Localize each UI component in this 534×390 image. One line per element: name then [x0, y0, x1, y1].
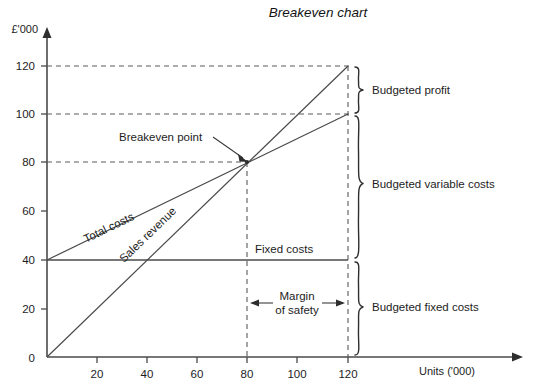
y-tick-label-60: 60: [22, 205, 35, 217]
x-axis-ticks: 20 40 60 80 100 120: [91, 357, 358, 380]
budgeted-variable-costs-label: Budgeted variable costs: [372, 178, 495, 190]
breakeven-chart-figure: Breakeven chart £'000 Units ('000) 120 1…: [0, 0, 534, 390]
chart-canvas: Breakeven chart £'000 Units ('000) 120 1…: [0, 0, 534, 390]
budgeted-fixed-costs-label: Budgeted fixed costs: [372, 301, 479, 313]
budgeted-profit-brace: [355, 67, 363, 113]
budgeted-profit-label: Budgeted profit: [372, 84, 451, 96]
margin-of-safety-label-line2: of safety: [275, 304, 319, 316]
series-label-total-costs: Total costs: [82, 210, 136, 245]
y-tick-label-0: 0: [29, 352, 35, 364]
x-tick-label-100: 100: [287, 368, 306, 380]
y-tick-label-80: 80: [22, 156, 35, 168]
margin-of-safety-label-line1: Margin: [279, 290, 314, 302]
x-tick-label-60: 60: [191, 368, 204, 380]
margin-of-safety-annotation: Margin of safety: [250, 290, 345, 316]
budgeted-fixed-costs-brace-group: Budgeted fixed costs: [355, 262, 479, 355]
y-tick-label-40: 40: [22, 254, 35, 266]
y-axis-unit-label: £'000: [11, 23, 38, 35]
x-tick-label-120: 120: [338, 368, 357, 380]
breakeven-point-marker: [245, 160, 249, 164]
margin-of-safety-left-arrowhead: [250, 300, 259, 307]
y-tick-label-120: 120: [16, 60, 35, 72]
x-axis-arrowhead: [512, 353, 523, 362]
y-axis-arrowhead: [43, 27, 52, 38]
y-axis-ticks: 120 100 80 60 40 20 0: [16, 60, 47, 364]
x-tick-label-20: 20: [91, 368, 104, 380]
budgeted-variable-costs-brace: [355, 116, 363, 258]
breakeven-point-label: Breakeven point: [119, 131, 203, 143]
budgeted-variable-costs-brace-group: Budgeted variable costs: [355, 116, 495, 258]
breakeven-point-annotation: Breakeven point: [119, 131, 249, 164]
x-tick-label-80: 80: [241, 368, 254, 380]
budgeted-fixed-costs-brace: [355, 262, 363, 355]
y-tick-label-100: 100: [16, 108, 35, 120]
y-tick-label-20: 20: [22, 303, 35, 315]
budgeted-profit-brace-group: Budgeted profit: [355, 67, 451, 113]
x-tick-label-40: 40: [141, 368, 154, 380]
x-axis-label: Units ('000): [419, 365, 475, 377]
margin-of-safety-right-arrowhead: [336, 300, 345, 307]
series-label-fixed-costs: Fixed costs: [255, 243, 313, 255]
chart-title: Breakeven chart: [269, 5, 369, 20]
